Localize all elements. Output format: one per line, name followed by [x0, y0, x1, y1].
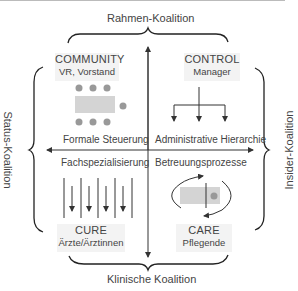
- quadrant-subtitle: Pflegende: [176, 237, 232, 249]
- coalition-label-right: Insider-Koalition: [283, 111, 295, 190]
- quadrant-control-caption: Administrative Hierarchie: [155, 134, 266, 145]
- quadrant-control-header: CONTROL Manager: [184, 53, 240, 81]
- quadrant-cure-caption: Fachspezialisierung: [61, 157, 149, 168]
- coalition-label-left: Status-Koalition: [2, 111, 14, 188]
- coalition-label-top: Rahmen-Koalition: [107, 12, 194, 24]
- specialization-columns-icon: [64, 178, 132, 218]
- quadrant-care-caption: Betreuungsprozesse: [155, 157, 247, 168]
- quadrant-title: CONTROL: [184, 53, 240, 66]
- quadrant-subtitle: VR, Vorstand: [55, 66, 119, 78]
- hierarchy-tree-icon: [174, 87, 225, 121]
- coalition-label-bottom: Klinische Koalition: [107, 273, 196, 285]
- quadrant-subtitle: Ärzte/Ärztinnen: [57, 237, 125, 249]
- right-brace: [255, 68, 269, 230]
- quadrant-title: COMMUNITY: [55, 53, 119, 66]
- quadrant-title: CARE: [176, 224, 232, 237]
- board-table-icon: [75, 85, 127, 126]
- top-brace: [68, 28, 228, 43]
- quadrant-community-caption: Formale Steuerung: [63, 134, 149, 145]
- quadrant-community-header: COMMUNITY VR, Vorstand: [55, 53, 119, 81]
- quadrant-cure-header: CURE Ärzte/Ärztinnen: [57, 224, 125, 252]
- quadrant-title: CURE: [57, 224, 125, 237]
- diagram-canvas: [0, 0, 298, 291]
- quadrant-care-header: CARE Pflegende: [176, 224, 232, 252]
- quadrant-subtitle: Manager: [184, 66, 240, 78]
- care-cycle-icon: [172, 176, 231, 216]
- bottom-brace: [69, 255, 228, 270]
- left-brace: [29, 67, 43, 232]
